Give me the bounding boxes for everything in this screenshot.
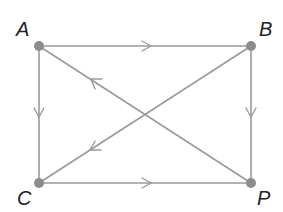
vertex-c	[34, 178, 44, 188]
vertex-label-p: P	[257, 187, 271, 209]
vertex-p	[246, 178, 256, 188]
vertex-a	[34, 41, 44, 51]
directed-graph: A B C P	[0, 0, 283, 212]
vertex-label-a: A	[15, 18, 29, 40]
vertex-label-b: B	[259, 18, 272, 40]
vertex-label-c: C	[17, 187, 32, 209]
vertex-b	[246, 41, 256, 51]
